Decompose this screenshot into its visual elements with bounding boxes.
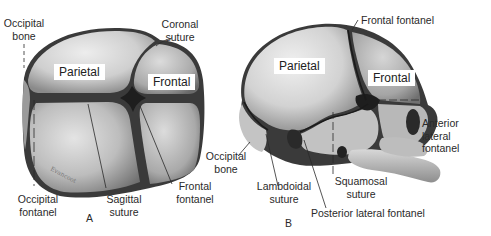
callout-coronal-suture-a: Coronal suture [152, 18, 208, 43]
label-parietal-a: Parietal [54, 64, 105, 80]
skull-diagram: Evancoot [0, 0, 491, 236]
skull-view-b [239, 24, 440, 183]
ear-canal-b [337, 146, 347, 158]
callout-lambdoidal-suture-b: Lambdoidal suture [252, 180, 316, 205]
parietal-bone-a-lower [30, 102, 140, 193]
callout-frontal-fontanel-b: Frontal fontanel [361, 14, 434, 27]
callout-occipital-bone-a: Occipital bone [0, 17, 48, 42]
callout-occipital-fontanel-a: Occipital fontanel [10, 193, 66, 218]
anterior-lateral-fontanel-text: Anterior lateral fontanel [422, 117, 491, 155]
skull-view-a: Evancoot [23, 28, 205, 198]
callout-squamosal-suture-b: Squamosal suture [330, 175, 392, 200]
label-frontal-b: Frontal [368, 70, 415, 86]
label-parietal-b: Parietal [274, 58, 325, 74]
orbit-b [406, 109, 420, 135]
panel-label-a: A [86, 212, 93, 224]
callout-anterior-lateral-fontanel-b: Anterior lateral fontanel [422, 92, 491, 167]
panel-label-b: B [285, 217, 292, 229]
callout-occipital-bone-b: Occipital bone [200, 150, 252, 175]
callout-frontal-fontanel-a: Frontal fontanel [168, 180, 222, 205]
callout-sagittal-suture-a: Sagittal suture [100, 193, 148, 218]
callout-posterior-lateral-fontanel-b: Posterior lateral fontanel [311, 207, 425, 220]
label-frontal-a: Frontal [148, 74, 195, 90]
frontal-bone-a-lower [140, 103, 200, 184]
